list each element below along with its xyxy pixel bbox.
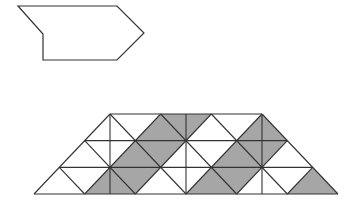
diagram-canvas xyxy=(0,0,358,208)
shaded-region xyxy=(287,167,338,194)
diagonal-line xyxy=(59,167,84,194)
grid-lines xyxy=(34,114,338,194)
trapezoid-grid xyxy=(34,114,338,194)
reference-polygon xyxy=(18,6,144,60)
